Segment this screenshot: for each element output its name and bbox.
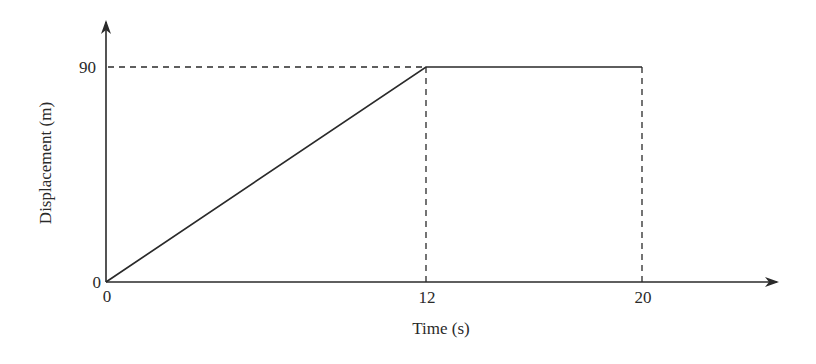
x-axis-title: Time (s) (412, 319, 469, 338)
x-tick-12: 12 (419, 288, 436, 307)
y-tick-0: 0 (93, 273, 102, 292)
displacement-time-chart: 90 0 0 12 20 Time (s) Displacement (m) (0, 0, 816, 364)
displacement-line (106, 67, 642, 282)
x-tick-0: 0 (103, 287, 112, 306)
y-tick-90: 90 (79, 58, 96, 77)
x-tick-20: 20 (635, 288, 652, 307)
y-axis-title: Displacement (m) (36, 102, 55, 224)
